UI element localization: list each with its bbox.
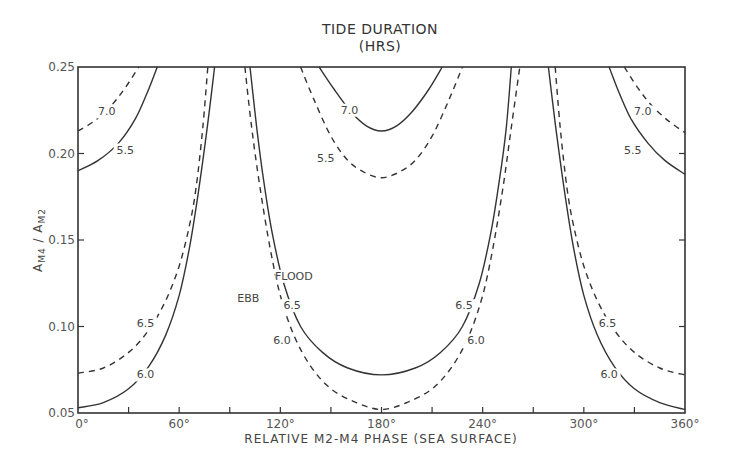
contour-solid-7-0 [319,67,442,131]
plot-frame [78,67,685,413]
y-tick-label: 0.25 [48,60,75,74]
contour-solid-5-5 [609,67,685,174]
contour-label: 6.5 [283,299,301,312]
x-tick-label: 0° [75,417,89,431]
contour-label: EBB [237,292,259,305]
svg-text:AM4 / AM2: AM4 / AM2 [31,208,47,272]
x-tick-label: 360° [671,417,700,431]
x-tick-label: 180° [367,417,396,431]
chart-subtitle: (HRS) [359,38,402,54]
y-axis-ticks [78,154,685,327]
y-label-sub2: M2 [37,208,47,224]
y-label-slash: / A [31,223,45,247]
contour-dashed-7-0 [78,67,139,131]
contour-label: FLOOD [275,270,313,283]
contour-label: 6.5 [599,317,617,330]
x-tick-label: 120° [266,417,295,431]
contour-label: 6.0 [467,334,485,347]
contour-label: 6.0 [600,368,618,381]
contour-label: 6.5 [137,317,155,330]
contour-label: 5.5 [116,144,134,157]
contour-label: 6.5 [455,299,473,312]
y-tick-label: 0.05 [48,406,75,420]
y-label-a1: A [31,263,45,272]
contour-curves [78,67,685,410]
x-axis-label: RELATIVE M2-M4 PHASE (SEA SURFACE) [244,432,517,446]
chart-title: TIDE DURATION [321,21,438,37]
contour-labels: 7.05.56.56.07.05.5FLOODEBB6.56.06.56.06.… [95,104,654,382]
contour-label: 7.0 [98,105,116,118]
y-tick-label: 0.15 [48,233,75,247]
x-axis-tick-labels: 0°60°120°180°240°300°360° [75,417,699,431]
x-tick-label: 240° [468,417,497,431]
x-tick-label: 60° [169,417,190,431]
y-axis-label: AM4 / AM2 [31,208,47,272]
contour-dashed-6-0 [245,67,520,410]
contour-label: 7.0 [341,104,359,117]
contour-dashed-6-5 [555,67,685,375]
y-axis-tick-labels: 0.050.100.150.200.25 [48,60,75,420]
contour-label: 5.5 [317,152,335,165]
x-axis-ticks [129,407,635,413]
y-tick-label: 0.20 [48,147,75,161]
contour-label: 6.0 [273,334,291,347]
y-label-sub1: M4 [37,247,47,263]
contour-label: 7.0 [634,105,652,118]
plot-area: 7.05.56.56.07.05.5FLOODEBB6.56.06.56.06.… [78,67,685,413]
x-tick-label: 300° [569,417,598,431]
contour-label: 6.0 [137,368,155,381]
contour-label: 5.5 [624,144,642,157]
y-tick-label: 0.10 [48,320,75,334]
contour-solid-6-0 [548,67,685,410]
tide-duration-chart: TIDE DURATION (HRS) 7.05.56.56.07.05.5FL… [0,0,729,469]
